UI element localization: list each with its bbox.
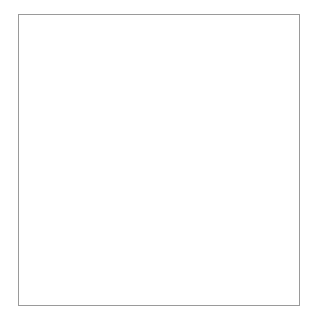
coordinate-grid	[0, 0, 314, 316]
